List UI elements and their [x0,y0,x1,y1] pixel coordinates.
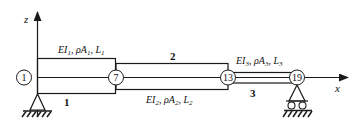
beam-segment-1 [38,59,116,94]
segment-1-properties: EI1, ρA1, L1 [57,44,104,57]
roller-support-icon [283,85,312,117]
node-13-label: 13 [223,72,233,83]
node-7: 7 [109,70,124,85]
node-1-label: 1 [22,72,27,83]
node-13: 13 [221,70,236,85]
segment-2-properties: EI2, ρA2, L2 [145,94,193,107]
segment-3-number: 3 [250,87,256,99]
x-axis-label: x [334,82,340,94]
segment-1-number: 1 [64,96,70,108]
node-1: 1 [17,70,32,85]
beam-segment-2 [116,64,228,90]
node-7-label: 7 [114,72,119,83]
stepped-beam-diagram: z x 1 7 13 19 EI1, ρA1, L1 EI2, ρA2, L2 [0,0,362,131]
segment-3-properties: EI3, ρA3, L3 [235,55,283,68]
segment-2-number: 2 [170,50,176,62]
node-19-label: 19 [292,72,302,83]
z-axis-label: z [23,13,29,25]
node-19: 19 [290,70,305,85]
